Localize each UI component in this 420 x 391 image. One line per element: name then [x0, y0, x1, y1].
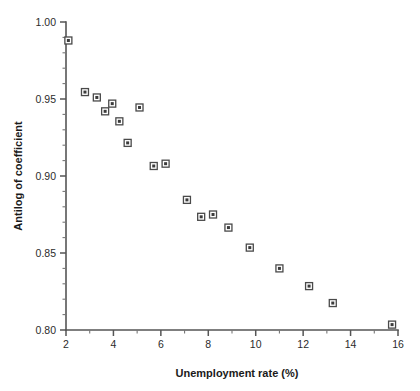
- x-tick-label: 14: [345, 338, 357, 350]
- data-point-core: [111, 102, 114, 105]
- y-tick-label: 0.90: [36, 170, 57, 182]
- data-point-core: [278, 267, 281, 270]
- data-point-core: [391, 323, 394, 326]
- x-tick-label: 12: [297, 338, 309, 350]
- data-point: [109, 100, 116, 107]
- y-tick-label: 1.00: [36, 16, 57, 28]
- x-tick-label: 8: [205, 338, 211, 350]
- data-point: [183, 196, 190, 203]
- data-point: [150, 162, 157, 169]
- data-point: [198, 213, 205, 220]
- data-point-core: [104, 110, 107, 113]
- data-point: [65, 37, 72, 44]
- data-point-core: [138, 106, 141, 109]
- y-tick-label: 0.95: [36, 93, 57, 105]
- data-point-core: [200, 215, 203, 218]
- data-point: [93, 94, 100, 101]
- data-point-core: [227, 226, 230, 229]
- data-markers: [65, 37, 396, 328]
- data-point-core: [248, 246, 251, 249]
- data-point: [116, 118, 123, 125]
- data-point: [102, 108, 109, 115]
- data-point: [389, 321, 396, 328]
- data-point-core: [83, 91, 86, 94]
- data-point-core: [95, 96, 98, 99]
- x-tick-label: 16: [392, 338, 404, 350]
- x-tick-label: 2: [63, 338, 69, 350]
- data-point: [210, 211, 217, 218]
- x-tick-label: 10: [250, 338, 262, 350]
- data-point: [124, 139, 131, 146]
- data-point: [329, 300, 336, 307]
- x-axis-title: Unemployment rate (%): [176, 367, 299, 379]
- data-point-core: [308, 285, 311, 288]
- axes: [66, 22, 398, 330]
- x-tick-label: 4: [111, 338, 117, 350]
- chart-figure: 0.800.850.900.951.00246810121416 Unemplo…: [0, 0, 420, 391]
- scatter-plot: 0.800.850.900.951.00246810121416 Unemplo…: [0, 0, 420, 391]
- data-point: [276, 265, 283, 272]
- y-tick-label: 0.85: [36, 247, 57, 259]
- data-point-core: [67, 39, 70, 42]
- data-point-core: [152, 164, 155, 167]
- data-point: [225, 224, 232, 231]
- data-point-core: [126, 141, 129, 144]
- y-tick-label: 0.80: [36, 324, 57, 336]
- data-point: [306, 283, 313, 290]
- data-point: [81, 89, 88, 96]
- axis-ticks: [60, 22, 398, 336]
- axis-tick-labels: 0.800.850.900.951.00246810121416: [36, 16, 404, 350]
- x-tick-label: 6: [158, 338, 164, 350]
- data-point-core: [164, 162, 167, 165]
- data-point-core: [212, 213, 215, 216]
- y-axis-title: Antilog of coefficient: [12, 121, 24, 231]
- data-point: [136, 104, 143, 111]
- data-point-core: [185, 198, 188, 201]
- data-point: [162, 160, 169, 167]
- data-point: [246, 244, 253, 251]
- data-point-core: [118, 120, 121, 123]
- data-point-core: [331, 302, 334, 305]
